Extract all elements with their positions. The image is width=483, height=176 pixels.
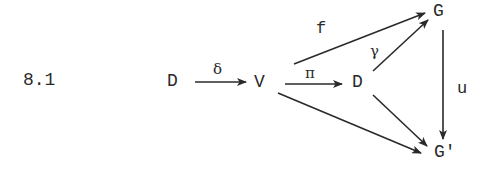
arrow-f — [294, 13, 425, 64]
arrow-d-to-gprime — [373, 95, 427, 146]
label-u: u — [457, 80, 467, 97]
equation-number: 8.1 — [23, 71, 55, 89]
node-g-prime: G' — [434, 143, 456, 161]
node-g: G — [433, 2, 444, 20]
label-pi: π — [305, 66, 315, 81]
label-f: f — [316, 20, 326, 37]
commutative-diagram: 8.1 D V D G G' δ π f γ u — [0, 0, 483, 176]
label-delta: δ — [213, 62, 222, 77]
label-gamma: γ — [370, 44, 379, 59]
node-v: V — [254, 73, 265, 91]
node-d-left: D — [167, 72, 178, 90]
diagram-arrows — [0, 0, 483, 176]
node-d-mid: D — [352, 73, 363, 91]
arrow-v-to-gprime — [278, 93, 421, 153]
arrow-gamma — [373, 20, 428, 71]
